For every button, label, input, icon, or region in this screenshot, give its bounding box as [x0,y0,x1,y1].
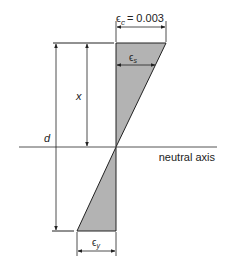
neutral-axis-label: neutral axis [159,151,216,163]
strain-diagram: ϵc= 0.003 ϵs x d neutral axis ϵy [0,0,229,268]
epsilon-y-label: ϵy [92,237,100,250]
epsilon-c-label: ϵc= 0.003 [116,12,164,27]
compression-strain-region [116,43,166,147]
x-label: x [75,90,82,102]
tension-strain-region [77,147,116,231]
d-label: d [44,132,51,144]
